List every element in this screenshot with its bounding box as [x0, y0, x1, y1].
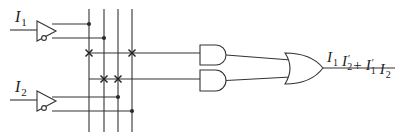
input-buffers: I1I2: [10, 8, 134, 113]
input-label: I1: [14, 8, 27, 28]
circuit-diagram: I1I2 I1I′2+I′1I2 I1 I2′ + I1′ I2: [0, 0, 415, 139]
output-label: I1I′2+I′1I2: [326, 49, 391, 80]
input-label: I2: [14, 78, 27, 98]
and-output-wire: [226, 77, 291, 81]
input-lines: [89, 9, 132, 132]
product-term-1: [86, 45, 292, 65]
inverter-bubble-icon: [42, 36, 47, 41]
and-output-wire: [226, 55, 291, 60]
product-term-2: [89, 70, 291, 91]
or-gate-icon: [285, 53, 323, 84]
output: I1I′2+I′1I2: [323, 49, 395, 80]
and-gate-icon: [200, 45, 226, 65]
and-array: [86, 45, 292, 91]
input-2: I2: [10, 78, 56, 111]
or-gate: [285, 53, 323, 84]
and-gate-icon: [200, 70, 226, 91]
input-1: I1: [10, 8, 56, 41]
inverter-bubble-icon: [42, 106, 47, 111]
